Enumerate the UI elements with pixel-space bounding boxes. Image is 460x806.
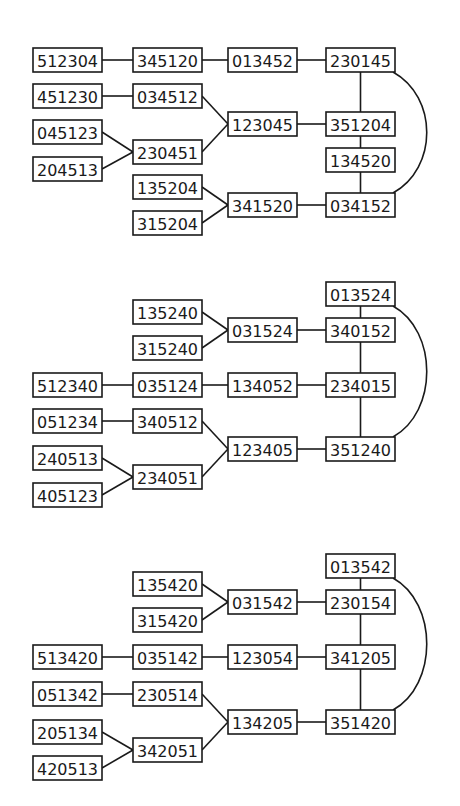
node-label: 205134 [37, 724, 98, 743]
node-013452: 013452 [228, 48, 297, 72]
node-451230: 451230 [33, 84, 102, 108]
edge-315240-031524 [202, 330, 228, 348]
node-label: 342051 [137, 742, 198, 761]
node-label: 034512 [137, 88, 198, 107]
edge-315204-341520 [202, 205, 228, 223]
node-340512: 340512 [133, 409, 202, 433]
node-label: 230451 [137, 144, 198, 163]
node-label: 035124 [137, 377, 198, 396]
node-label: 345120 [137, 52, 198, 71]
node-512340: 512340 [33, 373, 102, 397]
edge-045123-230451 [102, 132, 133, 152]
node-230451: 230451 [133, 140, 202, 164]
node-351240: 351240 [326, 437, 395, 461]
node-label: 134205 [232, 714, 293, 733]
node-label: 123045 [232, 116, 293, 135]
edge-034512-123045 [202, 96, 228, 124]
node-405123: 405123 [33, 483, 102, 507]
node-label: 013524 [330, 286, 391, 305]
node-label: 512304 [37, 52, 98, 71]
node-135420: 135420 [133, 572, 202, 596]
node-label: 351204 [330, 116, 391, 135]
node-label: 340152 [330, 322, 391, 341]
node-label: 315204 [137, 215, 198, 234]
node-341520: 341520 [228, 193, 297, 217]
arc-edge-230145-034152 [393, 72, 427, 193]
node-label: 045123 [37, 124, 98, 143]
node-230514: 230514 [133, 682, 202, 706]
node-label: 420513 [37, 760, 98, 779]
node-label: 204513 [37, 161, 98, 180]
node-034152: 034152 [326, 193, 395, 217]
edge-230514-134205 [202, 694, 228, 722]
node-420513: 420513 [33, 756, 102, 780]
node-051342: 051342 [33, 682, 102, 706]
node-label: 341205 [330, 649, 391, 668]
node-label: 240513 [37, 450, 98, 469]
node-230154: 230154 [326, 590, 395, 614]
node-label: 035142 [137, 649, 198, 668]
node-label: 341520 [232, 197, 293, 216]
node-label: 512340 [37, 377, 98, 396]
edge-420513-342051 [102, 750, 133, 768]
node-345120: 345120 [133, 48, 202, 72]
node-label: 351240 [330, 441, 391, 460]
node-341205: 341205 [326, 645, 395, 669]
node-label: 034152 [330, 197, 391, 216]
node-135240: 135240 [133, 300, 202, 324]
edge-405123-234051 [102, 477, 133, 495]
node-123054: 123054 [228, 645, 297, 669]
node-051234: 051234 [33, 409, 102, 433]
node-230145: 230145 [326, 48, 395, 72]
edge-204513-230451 [102, 152, 133, 169]
node-label: 234015 [330, 377, 391, 396]
edge-205134-342051 [102, 732, 133, 750]
node-342051: 342051 [133, 738, 202, 762]
node-513420: 513420 [33, 645, 102, 669]
node-351204: 351204 [326, 112, 395, 136]
node-label: 513420 [37, 649, 98, 668]
edge-234051-123405 [202, 449, 228, 477]
node-205134: 205134 [33, 720, 102, 744]
node-315240: 315240 [133, 336, 202, 360]
node-label: 123054 [232, 649, 293, 668]
node-label: 135420 [137, 576, 198, 595]
edge-135420-031542 [202, 584, 228, 602]
node-label: 134052 [232, 377, 293, 396]
node-204513: 204513 [33, 157, 102, 181]
node-label: 135204 [137, 179, 198, 198]
node-label: 230514 [137, 686, 198, 705]
node-label: 013452 [232, 52, 293, 71]
node-315204: 315204 [133, 211, 202, 235]
node-340152: 340152 [326, 318, 395, 342]
edge-240513-234051 [102, 458, 133, 477]
node-label: 134520 [330, 152, 391, 171]
node-label: 315240 [137, 340, 198, 359]
node-135204: 135204 [133, 175, 202, 199]
edge-342051-134205 [202, 722, 228, 750]
node-123045: 123045 [228, 112, 297, 136]
arc-edge-013542-351420 [393, 578, 427, 710]
node-134520: 134520 [326, 148, 395, 172]
node-label: 135240 [137, 304, 198, 323]
node-351420: 351420 [326, 710, 395, 734]
node-013542: 013542 [326, 554, 395, 578]
node-031524: 031524 [228, 318, 297, 342]
node-045123: 045123 [33, 120, 102, 144]
arc-edge-013524-351240 [393, 306, 427, 437]
node-label: 051234 [37, 413, 98, 432]
node-label: 315420 [137, 612, 198, 631]
edge-230451-123045 [202, 124, 228, 152]
node-label: 123405 [232, 441, 293, 460]
node-034512: 034512 [133, 84, 202, 108]
node-234051: 234051 [133, 465, 202, 489]
node-315420: 315420 [133, 608, 202, 632]
edge-340512-123405 [202, 421, 228, 449]
node-035142: 035142 [133, 645, 202, 669]
node-031542: 031542 [228, 590, 297, 614]
node-label: 340512 [137, 413, 198, 432]
node-013524: 013524 [326, 282, 395, 306]
edge-135204-341520 [202, 187, 228, 205]
node-label: 031542 [232, 594, 293, 613]
node-label: 031524 [232, 322, 293, 341]
